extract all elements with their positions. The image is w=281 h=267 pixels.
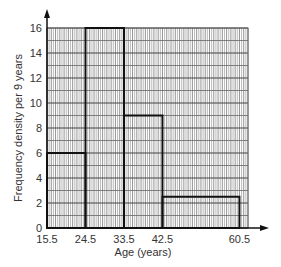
y-axis-ticks: 0246810121416 (30, 22, 42, 234)
y-tick-label: 4 (36, 172, 42, 184)
y-tick-label: 8 (36, 122, 42, 134)
x-tick-label: 33.5 (113, 233, 134, 245)
x-tick-label: 24.5 (75, 233, 96, 245)
x-axis-ticks: 15.524.533.542.560.5 (36, 233, 250, 245)
y-tick-label: 14 (30, 47, 42, 59)
y-tick-label: 6 (36, 147, 42, 159)
x-tick-label: 42.5 (152, 233, 173, 245)
y-axis-label: Frequency density per 9 years (12, 54, 24, 202)
x-tick-label: 15.5 (36, 233, 57, 245)
y-tick-label: 2 (36, 197, 42, 209)
x-tick-label: 60.5 (229, 233, 250, 245)
y-tick-label: 16 (30, 22, 42, 34)
y-tick-label: 10 (30, 97, 42, 109)
histogram-chart: 0246810121416 15.524.533.542.560.5 Age (… (0, 0, 281, 267)
grid (47, 28, 248, 228)
x-axis-label: Age (years) (115, 246, 172, 258)
y-tick-label: 12 (30, 72, 42, 84)
